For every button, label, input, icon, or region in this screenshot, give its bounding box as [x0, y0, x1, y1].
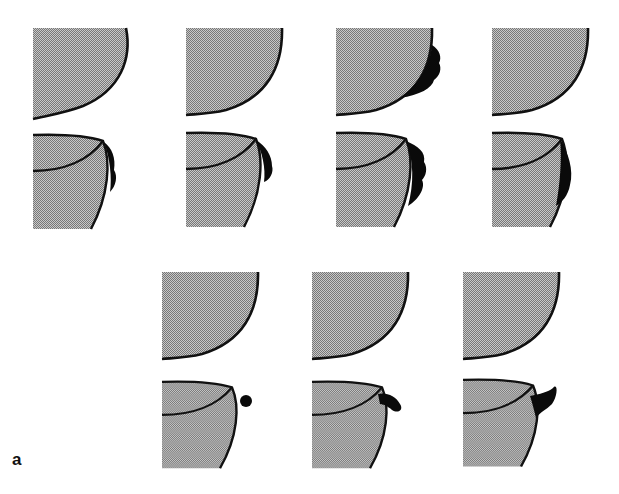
panel-r1c3-top	[336, 28, 440, 115]
panel-r1c2-bottom	[186, 133, 273, 227]
panel-r1c1-top	[33, 28, 128, 119]
panel-r2c2-top	[312, 272, 408, 359]
panel-r2c1-bottom	[162, 382, 252, 469]
panel-r1c1-bottom	[33, 135, 116, 229]
panel-r2c3-bottom	[463, 380, 557, 467]
panel-r2c2-bottom	[312, 382, 401, 469]
panel-r1c4-top	[492, 28, 588, 115]
panel-r1c4-bottom	[492, 133, 571, 227]
panel-r1c3-bottom	[336, 133, 426, 227]
panel-r2c3-top	[463, 272, 559, 359]
panel-r1c2-top	[186, 28, 282, 115]
figure-canvas	[0, 0, 619, 494]
panel-label: a	[12, 450, 21, 470]
deposit-shape	[240, 395, 252, 407]
panel-r2c1-top	[162, 272, 258, 359]
